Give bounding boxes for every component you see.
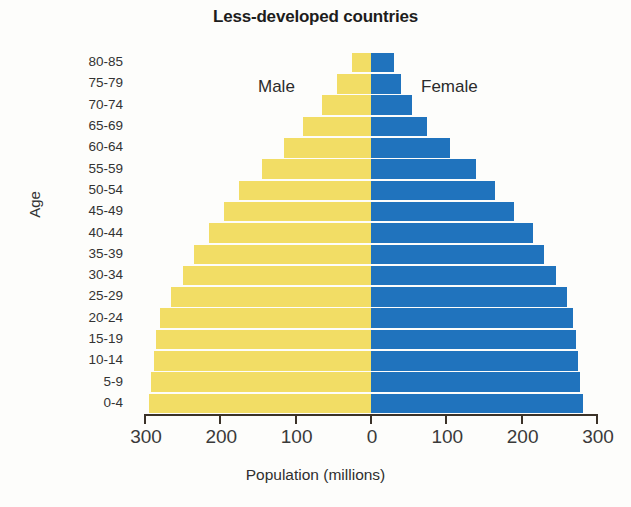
age-label-0-4: 0-4 xyxy=(45,396,123,410)
age-label-60-64: 60-64 xyxy=(45,140,123,154)
x-tick-label-0: 300 xyxy=(111,426,181,448)
age-label-30-34: 30-34 xyxy=(45,268,123,282)
pyramid-row xyxy=(145,222,597,243)
x-tick-5 xyxy=(521,414,523,424)
bar-male-25-29[interactable] xyxy=(171,287,371,307)
x-axis-title: Population (millions) xyxy=(0,466,631,484)
bar-male-70-74[interactable] xyxy=(322,95,371,115)
series-label-female: Female xyxy=(421,77,478,97)
bar-male-45-49[interactable] xyxy=(224,202,371,222)
age-label-20-24: 20-24 xyxy=(45,311,123,325)
bar-female-45-49[interactable] xyxy=(371,202,514,222)
bar-female-80-85[interactable] xyxy=(371,53,394,73)
bar-female-20-24[interactable] xyxy=(371,308,573,328)
x-tick-label-3: 0 xyxy=(337,426,407,448)
bar-male-40-44[interactable] xyxy=(209,223,371,243)
bar-female-25-29[interactable] xyxy=(371,287,567,307)
pyramid-row xyxy=(145,265,597,286)
age-label-80-85: 80-85 xyxy=(45,55,123,69)
bar-female-60-64[interactable] xyxy=(371,138,450,158)
pyramid-row xyxy=(145,158,597,179)
bar-male-30-34[interactable] xyxy=(183,266,371,286)
population-pyramid-plot xyxy=(145,52,597,414)
pyramid-row xyxy=(145,350,597,371)
age-label-35-39: 35-39 xyxy=(45,247,123,261)
chart-title: Less-developed countries xyxy=(0,7,631,27)
x-tick-3 xyxy=(370,414,372,424)
pyramid-row xyxy=(145,308,597,329)
age-label-65-69: 65-69 xyxy=(45,119,123,133)
pyramid-row xyxy=(145,286,597,307)
pyramid-row xyxy=(145,73,597,94)
pyramid-row xyxy=(145,52,597,73)
bar-female-55-59[interactable] xyxy=(371,159,476,179)
age-label-70-74: 70-74 xyxy=(45,98,123,112)
bar-male-50-54[interactable] xyxy=(239,181,371,201)
x-tick-label-1: 200 xyxy=(186,426,256,448)
pyramid-row xyxy=(145,180,597,201)
x-tick-2 xyxy=(295,414,297,424)
x-tick-6 xyxy=(596,414,598,424)
series-label-male: Male xyxy=(258,77,295,97)
bar-male-60-64[interactable] xyxy=(284,138,371,158)
bar-male-65-69[interactable] xyxy=(303,117,371,137)
bar-female-40-44[interactable] xyxy=(371,223,533,243)
x-tick-label-5: 200 xyxy=(488,426,558,448)
age-label-5-9: 5-9 xyxy=(45,375,123,389)
bar-female-65-69[interactable] xyxy=(371,117,427,137)
age-label-75-79: 75-79 xyxy=(45,76,123,90)
x-tick-label-6: 300 xyxy=(563,426,631,448)
x-tick-1 xyxy=(219,414,221,424)
pyramid-row xyxy=(145,244,597,265)
bar-male-75-79[interactable] xyxy=(337,74,371,94)
bar-male-15-19[interactable] xyxy=(156,330,371,350)
bar-female-50-54[interactable] xyxy=(371,181,495,201)
y-axis-title: Age xyxy=(26,165,43,245)
age-label-50-54: 50-54 xyxy=(45,183,123,197)
x-tick-0 xyxy=(144,414,146,424)
bar-female-15-19[interactable] xyxy=(371,330,576,350)
x-tick-label-2: 100 xyxy=(262,426,332,448)
pyramid-row xyxy=(145,201,597,222)
age-label-55-59: 55-59 xyxy=(45,162,123,176)
bar-female-0-4[interactable] xyxy=(371,394,583,414)
bar-male-35-39[interactable] xyxy=(194,245,371,265)
age-label-45-49: 45-49 xyxy=(45,204,123,218)
bar-male-20-24[interactable] xyxy=(160,308,371,328)
pyramid-row xyxy=(145,116,597,137)
age-label-10-14: 10-14 xyxy=(45,353,123,367)
bar-male-5-9[interactable] xyxy=(151,372,371,392)
pyramid-row xyxy=(145,393,597,414)
bar-female-70-74[interactable] xyxy=(371,95,412,115)
pyramid-row xyxy=(145,95,597,116)
bar-female-30-34[interactable] xyxy=(371,266,556,286)
x-tick-4 xyxy=(445,414,447,424)
bar-male-10-14[interactable] xyxy=(154,351,371,371)
age-label-40-44: 40-44 xyxy=(45,226,123,240)
bar-female-75-79[interactable] xyxy=(371,74,401,94)
bar-female-10-14[interactable] xyxy=(371,351,578,371)
pyramid-row xyxy=(145,371,597,392)
x-tick-label-4: 100 xyxy=(412,426,482,448)
bar-male-80-85[interactable] xyxy=(352,53,371,73)
pyramid-row xyxy=(145,137,597,158)
pyramid-row xyxy=(145,329,597,350)
bar-male-0-4[interactable] xyxy=(149,394,371,414)
age-label-25-29: 25-29 xyxy=(45,289,123,303)
age-label-15-19: 15-19 xyxy=(45,332,123,346)
bar-female-35-39[interactable] xyxy=(371,245,544,265)
bar-female-5-9[interactable] xyxy=(371,372,580,392)
bar-male-55-59[interactable] xyxy=(262,159,371,179)
